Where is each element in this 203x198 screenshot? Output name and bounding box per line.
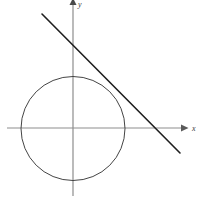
y-axis-label: y <box>77 0 82 9</box>
y-axis-group: y <box>70 0 83 196</box>
x-axis-label: x <box>191 124 196 133</box>
x-axis-group: x <box>7 124 196 133</box>
line-shape <box>42 14 180 153</box>
y-axis-arrowhead <box>70 0 77 5</box>
x-axis-arrowhead <box>181 124 189 131</box>
geometry-figure: x y <box>0 0 203 198</box>
figure-canvas: x y <box>0 0 203 198</box>
